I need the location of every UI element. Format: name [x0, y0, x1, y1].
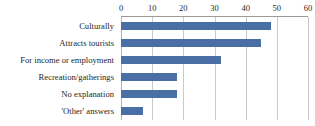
bar: [121, 73, 177, 81]
bar-row: [121, 86, 308, 103]
bar-chart: 0102030405060 CulturallyAttracts tourist…: [0, 0, 315, 126]
category-label: No explanation: [0, 86, 118, 103]
bar-row: [121, 69, 308, 86]
x-tick-label: 0: [119, 3, 123, 13]
category-label: Attracts tourists: [0, 34, 118, 51]
x-tick-label: 50: [273, 3, 282, 13]
x-tick-label: 20: [179, 3, 188, 13]
bar-row: [121, 34, 308, 51]
bar-row: [121, 17, 308, 34]
bar: [121, 56, 221, 64]
bar: [121, 107, 143, 115]
bar-row: [121, 103, 308, 120]
category-label: Recreation/gatherings: [0, 69, 118, 86]
category-label: 'Other' answers: [0, 103, 118, 120]
category-axis-labels: CulturallyAttracts touristsFor income or…: [0, 17, 118, 120]
x-tick-label: 40: [241, 3, 250, 13]
category-label: Culturally: [0, 17, 118, 34]
x-tick-label: 60: [304, 3, 313, 13]
x-tick-label: 10: [148, 3, 157, 13]
x-tick-label: 30: [210, 3, 219, 13]
bar: [121, 90, 177, 98]
bar: [121, 39, 261, 47]
category-label: For income or employment: [0, 51, 118, 68]
x-axis-tick-labels: 0102030405060: [0, 0, 315, 17]
bar-row: [121, 51, 308, 68]
gridline: [308, 17, 309, 120]
plot-area: [121, 17, 308, 120]
bar: [121, 22, 271, 30]
bar-series: [121, 17, 308, 120]
